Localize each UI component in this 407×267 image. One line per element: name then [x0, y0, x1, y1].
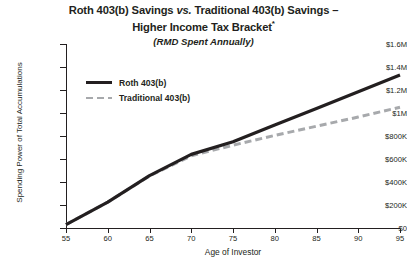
x-tick-label: 95 [396, 234, 404, 243]
footnote-marker: * [272, 19, 275, 28]
x-tick-label: 70 [187, 234, 195, 243]
series-lines [66, 44, 400, 228]
legend-item-roth: Roth 403(b) [86, 75, 190, 90]
chart-title-part-1: Roth 403(b) Savings [69, 4, 177, 16]
legend-swatch-roth-solid-line [86, 77, 112, 88]
x-tick-mark [108, 229, 109, 233]
x-tick-label: 60 [104, 234, 112, 243]
x-tick-label: 85 [312, 234, 320, 243]
x-tick-label: 90 [354, 234, 362, 243]
legend-swatch-traditional-dashed-line [86, 92, 112, 103]
series-line-traditional-403-b [66, 107, 400, 224]
chart-title-line-1: Roth 403(b) Savings vs. Traditional 403(… [0, 4, 407, 17]
x-tick-mark [400, 229, 401, 233]
x-tick-mark [358, 229, 359, 233]
x-tick-label: 55 [62, 234, 70, 243]
x-tick-mark [150, 229, 151, 233]
legend-item-traditional: Traditional 403(b) [86, 90, 190, 105]
x-tick-mark [191, 229, 192, 233]
legend-label-traditional: Traditional 403(b) [119, 93, 190, 103]
legend-label-roth: Roth 403(b) [119, 78, 166, 88]
chart-legend: Roth 403(b) Traditional 403(b) [86, 75, 190, 105]
x-axis-title: Age of Investor [66, 247, 400, 257]
chart-title-block: Roth 403(b) Savings vs. Traditional 403(… [0, 4, 407, 48]
x-tick-mark [233, 229, 234, 233]
y-axis-title: Spending Power of Total Accumulations [15, 40, 24, 226]
chart-title-vs: vs. [176, 4, 191, 16]
x-tick-mark [275, 229, 276, 233]
x-tick-mark [317, 229, 318, 233]
x-tick-label: 75 [229, 234, 237, 243]
plot-area [66, 44, 400, 228]
chart-title-line-2-text: Higher Income Tax Bracket [132, 21, 272, 33]
chart-container: Roth 403(b) Savings vs. Traditional 403(… [0, 0, 407, 267]
x-tick-mark [66, 229, 67, 233]
chart-title-line-2: Higher Income Tax Bracket* [0, 17, 407, 34]
chart-title-part-2: Traditional 403(b) Savings – [192, 4, 339, 16]
x-tick-label: 65 [145, 234, 153, 243]
x-tick-label: 80 [271, 234, 279, 243]
